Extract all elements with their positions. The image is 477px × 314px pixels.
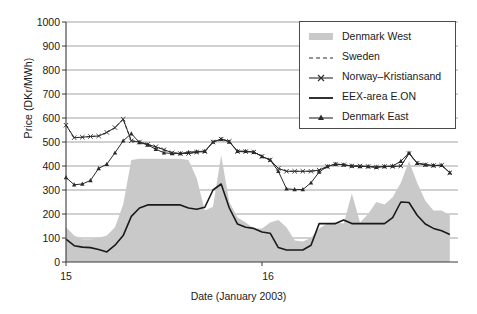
line-triangle-marker-icon xyxy=(306,110,336,122)
chart-figure: 1000 900 800 700 600 500 400 300 200 100… xyxy=(0,0,477,314)
x-tick-label: 16 xyxy=(253,270,283,282)
legend-item-norway-kristiansand: Norway–Kristiansand xyxy=(300,66,455,86)
y-tick-label: 0 xyxy=(26,257,60,268)
legend-label: Sweden xyxy=(342,50,380,62)
solid-line-icon xyxy=(306,90,336,102)
x-axis-title: Date (January 2003) xyxy=(0,290,477,302)
x-tick-label: 15 xyxy=(51,270,81,282)
legend-item-denmark-east: Denmark East xyxy=(300,106,455,126)
legend-label: EEX-area E.ON xyxy=(342,90,416,102)
y-axis-title: Price (DKr/MWh) xyxy=(22,18,34,178)
legend-label: Denmark East xyxy=(342,110,409,122)
y-tick-label: 100 xyxy=(26,233,60,244)
legend-label: Norway–Kristiansand xyxy=(342,70,441,82)
y-tick-label: 300 xyxy=(26,185,60,196)
chart-legend: Denmark West Sweden Norway–Kristiansand … xyxy=(299,21,456,129)
legend-label: Denmark West xyxy=(342,30,411,42)
legend-item-denmark-west: Denmark West xyxy=(300,26,455,46)
series-area-denmark-west xyxy=(66,155,450,262)
y-tick-label: 200 xyxy=(26,209,60,220)
area-swatch-icon xyxy=(306,30,336,42)
dashed-line-icon xyxy=(306,50,336,62)
marker-triangle xyxy=(129,131,133,135)
line-x-marker-icon xyxy=(306,70,336,82)
legend-item-eex-area-eon: EEX-area E.ON xyxy=(300,86,455,106)
marker-x xyxy=(105,130,109,134)
legend-item-sweden: Sweden xyxy=(300,46,455,66)
marker-x xyxy=(113,125,117,129)
